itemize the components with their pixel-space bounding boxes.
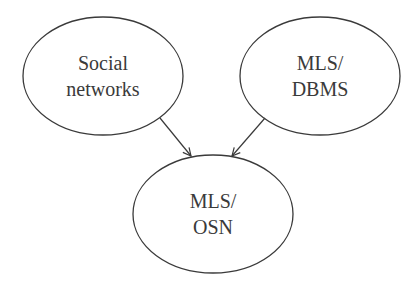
node-mls-dbms: MLS/ DBMS [240,17,400,135]
node-label-line: networks [66,76,139,102]
node-label-line: Social [78,50,128,76]
node-label-line: MLS/ [190,188,237,214]
node-mls-osn: MLS/ OSN [133,155,293,273]
node-label-line: OSN [193,214,233,240]
node-social-networks: Social networks [23,17,183,135]
node-label-line: MLS/ [297,50,344,76]
node-label-line: DBMS [292,76,349,102]
